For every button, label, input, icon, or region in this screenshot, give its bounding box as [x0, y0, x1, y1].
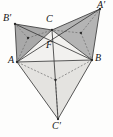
point-B	[91, 59, 93, 61]
point-C	[51, 29, 53, 31]
vertex-label-F: F	[46, 40, 52, 50]
point-A	[16, 61, 18, 63]
vertex-label-A: A	[8, 55, 14, 65]
vertex-label-C: C	[46, 14, 53, 24]
vertex-label-B-prime: B′	[3, 13, 11, 23]
vertex-label-C-prime: C′	[52, 121, 61, 131]
point-centroid-ACB′	[27, 37, 29, 39]
filled-regions	[15, 9, 100, 119]
vertex-label-A-prime: A′	[97, 0, 105, 10]
point-B′	[14, 23, 16, 25]
vertex-label-B: B	[95, 53, 101, 63]
geometry-canvas	[0, 0, 113, 137]
point-centroid-BCA′	[80, 32, 82, 34]
geometry-figure: A B C F A′ B′ C′	[0, 0, 113, 137]
point-centroid-ABC′	[54, 79, 56, 81]
